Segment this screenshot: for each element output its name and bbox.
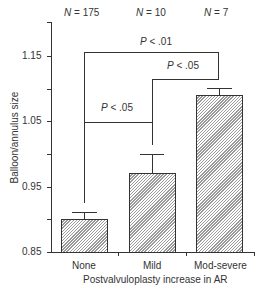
y-axis-top-cap — [47, 22, 51, 23]
bracket-p05-lower — [84, 122, 152, 123]
ytick-110 — [47, 89, 51, 90]
p-value: < .05 — [108, 102, 133, 113]
p-label-05-upper: P < .05 — [167, 60, 199, 71]
bracket-p05-upper-top — [152, 79, 219, 80]
p-label-05-lower: P < .05 — [101, 102, 133, 113]
ytick-090 — [47, 219, 51, 220]
p-value: < .01 — [147, 36, 172, 47]
n-value: = 7 — [211, 7, 228, 18]
category-label-mod-severe: Mod-severe — [194, 260, 247, 271]
errorbar-mod-severe — [219, 88, 220, 95]
category-label-none: None — [72, 260, 96, 271]
ytick-label-095: 0.95 — [22, 181, 41, 192]
errorbar-none — [84, 212, 85, 219]
ytick-100 — [47, 154, 51, 155]
xtick-1 — [118, 252, 119, 256]
bar-mod-severe — [196, 95, 243, 253]
y-axis — [51, 22, 52, 253]
ytick-105 — [47, 121, 51, 122]
x-axis-title: Postvalvuloplasty increase in AR — [83, 274, 228, 285]
y-axis-title: Balloon/annulus size — [9, 88, 20, 188]
bar-mild — [129, 173, 176, 253]
category-label-mild: Mild — [143, 260, 161, 271]
errorbar-mild — [152, 154, 153, 173]
p-symbol: P — [101, 102, 108, 113]
bracket-p01-right — [218, 52, 219, 79]
ytick-label-105: 1.05 — [22, 115, 41, 126]
errorbar-cap-mild — [140, 154, 164, 155]
ytick-label-115: 1.15 — [22, 50, 41, 61]
n-value: = 10 — [143, 7, 166, 18]
n-value: = 175 — [71, 7, 99, 18]
ytick-label-085: 0.85 — [22, 246, 41, 257]
n-label-none: N = 175 — [64, 7, 99, 18]
bracket-p01-top — [84, 52, 219, 53]
bar-none — [61, 219, 108, 253]
p-label-01: P < .01 — [140, 36, 172, 47]
errorbar-cap-none — [72, 212, 97, 213]
errorbar-cap-mod-severe — [207, 88, 232, 89]
xtick-2 — [186, 252, 187, 256]
bracket-mid-leg — [152, 79, 153, 145]
p-value: < .05 — [174, 60, 199, 71]
n-label-mild: N = 10 — [136, 7, 166, 18]
p-symbol: P — [167, 60, 174, 71]
xtick-3 — [254, 252, 255, 256]
p-symbol: P — [140, 36, 147, 47]
ytick-095 — [47, 187, 51, 188]
bracket-left-leg — [84, 52, 85, 203]
ytick-115 — [47, 56, 51, 57]
n-label-mod-severe: N = 7 — [204, 7, 228, 18]
